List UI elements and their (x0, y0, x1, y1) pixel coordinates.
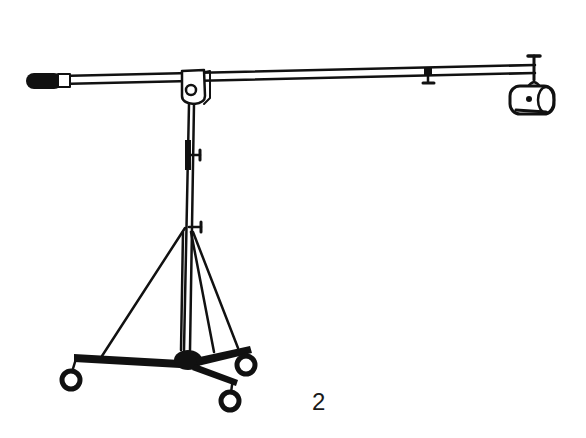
stand-pole (184, 104, 201, 350)
figure-number: 2 (312, 388, 325, 416)
tripod-legs (102, 228, 238, 356)
boom-stand-illustration (0, 0, 586, 438)
wheeled-base (74, 346, 252, 386)
counterweight-handle (26, 73, 70, 89)
boom-arm (60, 65, 535, 84)
pivot-clamp (182, 70, 210, 104)
